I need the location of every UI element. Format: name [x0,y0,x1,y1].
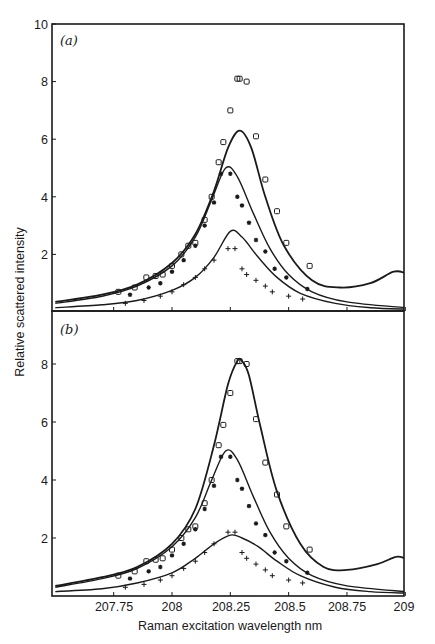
y-tick-label: 2 [41,248,48,262]
square-marker [244,79,249,84]
plus-marker [263,567,268,572]
asterisk-marker [240,487,244,491]
plus-marker [270,289,275,294]
plus-marker [244,556,249,561]
y-tick-label: 6 [41,133,48,147]
panel-a-y-tick-labels: 10 8 6 4 2 [34,18,48,262]
raman-figure: (a) (b) Relative scattered intensity Ram… [0,0,435,644]
square-marker [307,263,312,268]
asterisk-marker [228,455,232,459]
plus-marker [142,582,147,587]
asterisk-marker [170,553,174,557]
asterisk-marker [284,275,288,279]
asterisk-marker [158,281,162,285]
y-tick-label: 4 [41,191,48,205]
plus-marker [300,297,305,302]
asterisk-marker [272,267,276,271]
x-axis-title: Raman excitation wavelength nm [138,619,322,633]
asterisk-marker [170,269,174,273]
asterisk-marker [263,533,267,537]
square-marker [221,140,226,145]
square-marker [284,240,289,245]
plus-marker [232,246,237,251]
asterisk-marker [247,221,251,225]
asterisk-marker [263,249,267,253]
y-axis-title: Relative scattered intensity [13,227,27,377]
plus-marker [239,550,244,555]
asterisk-marker [235,478,239,482]
asterisk-marker [193,244,197,248]
plus-marker [263,284,268,289]
plot-area [55,76,405,309]
square-marker [228,391,233,396]
y-tick-label: 10 [34,18,48,32]
asterisk-marker [228,172,232,176]
y-tick-label: 2 [41,532,48,546]
square-marker [263,177,268,182]
panel-b-y-tick-labels: 8 6 4 2 [41,358,48,546]
square-marker [274,209,279,214]
panel-frame [52,311,404,596]
asterisk-marker [240,203,244,207]
y-tick-label: 4 [41,474,48,488]
plus-marker [158,578,163,583]
square-marker [263,460,268,465]
plot-area [55,359,405,593]
asterisk-marker [158,565,162,569]
asterisk-marker [181,542,185,546]
square-marker [216,160,221,165]
plus-marker [270,573,275,578]
panel-b-label: (b) [60,322,78,337]
chart-canvas: (a) (b) Relative scattered intensity Ram… [0,0,435,644]
square-marker [307,547,312,552]
x-tick-label: 209 [394,600,415,614]
asterisk-marker [128,293,132,297]
asterisk-marker [146,569,150,573]
y-tick-label: 8 [41,358,48,372]
asterisk-marker [128,576,132,580]
asterisk-marker [247,504,251,508]
asterisk-marker [181,258,185,262]
asterisk-marker [254,521,258,525]
x-tick-label: 208.5 [274,600,305,614]
plus-marker [300,580,305,585]
fit-curve [55,450,405,592]
plus-marker [239,266,244,271]
x-tick-label: 208.25 [212,600,250,614]
plus-marker [232,530,237,535]
x-tick-label: 208.75 [328,600,366,614]
x-tick-label: 207.75 [95,600,133,614]
plus-marker [225,530,230,535]
asterisk-marker [212,484,216,488]
asterisk-marker [202,507,206,511]
asterisk-marker [193,527,197,531]
square-marker [284,524,289,529]
fit-curve [55,131,405,302]
asterisk-marker [212,200,216,204]
x-tick-labels: 207.75 208 208.25 208.5 208.75 209 [95,600,415,614]
panel-a-label: (a) [60,33,78,48]
panel-b [52,311,405,596]
square-marker [160,556,165,561]
plus-marker [225,246,230,251]
fit-curve [55,230,405,309]
square-marker [253,134,258,139]
fit-curve [55,359,405,586]
square-marker [216,443,221,448]
asterisk-marker [272,550,276,554]
asterisk-marker [235,195,239,199]
asterisk-marker [254,238,258,242]
plus-marker [253,278,258,283]
x-tick-label: 208 [162,600,183,614]
panel-a [52,24,405,311]
y-tick-label: 6 [41,416,48,430]
square-marker [228,108,233,113]
plus-marker [286,294,291,299]
asterisk-marker [202,223,206,227]
square-marker [221,422,226,427]
plus-marker [244,272,249,277]
asterisk-marker [284,559,288,563]
plus-marker [253,562,258,567]
asterisk-marker [146,285,150,289]
fit-curve [55,535,405,593]
